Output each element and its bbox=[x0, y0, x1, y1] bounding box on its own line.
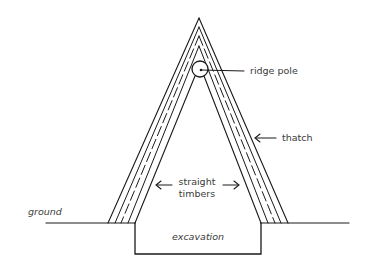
ridge-pole bbox=[192, 61, 208, 77]
thatch-arrow-icon bbox=[255, 134, 276, 142]
ridge-pole-label: ridge pole bbox=[250, 65, 298, 76]
diagram-canvas: ridge pole thatch straight timbers groun… bbox=[0, 0, 369, 273]
straight-timbers-label-line1: straight bbox=[179, 176, 216, 187]
straight-timbers-label-line2: timbers bbox=[179, 188, 215, 199]
straight-timbers bbox=[135, 76, 261, 223]
ground-label: ground bbox=[28, 206, 63, 217]
excavation-label: excavation bbox=[172, 231, 224, 242]
timbers-right-arrow-icon bbox=[223, 181, 239, 189]
timbers-left-arrow-icon bbox=[156, 181, 172, 189]
thatch-label: thatch bbox=[282, 132, 313, 143]
